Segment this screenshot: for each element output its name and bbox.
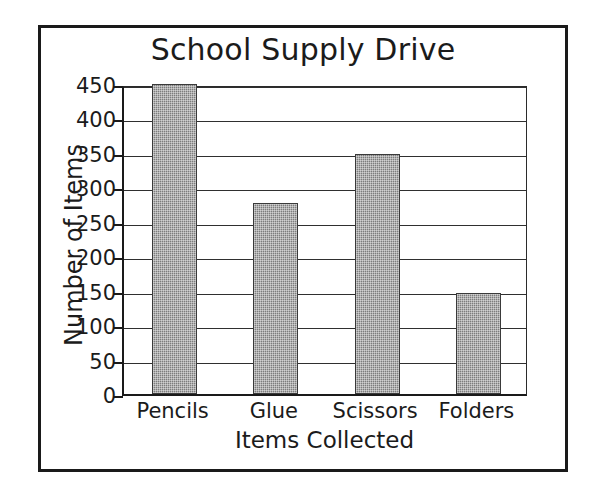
y-axis-tick-mark xyxy=(114,155,123,157)
y-axis-tick-mark xyxy=(114,258,123,260)
y-axis-tick-mark xyxy=(114,327,123,329)
x-axis-tick-label: Pencils xyxy=(136,400,208,423)
x-axis-title: Items Collected xyxy=(122,428,527,453)
y-axis-tick-mark xyxy=(114,86,123,88)
y-axis-tick-mark xyxy=(114,362,123,364)
y-axis-title-wrap: Number of Items xyxy=(56,120,92,370)
bar-scissors xyxy=(355,154,400,394)
y-axis-tick-mark xyxy=(114,396,123,398)
y-axis-tick-mark xyxy=(114,120,123,122)
x-axis-tick-label: Scissors xyxy=(333,400,418,423)
y-axis-tick-mark xyxy=(114,224,123,226)
x-axis-tick-label: Folders xyxy=(438,400,514,423)
y-axis-title: Number of Items xyxy=(62,130,86,360)
x-axis-tick-labels: PencilsGlueScissorsFolders xyxy=(122,400,527,430)
bar-folders xyxy=(456,293,501,394)
plot-area xyxy=(122,86,527,396)
chart-page: School Supply Drive 05010015020025030035… xyxy=(0,0,596,494)
y-axis-tick-mark xyxy=(114,293,123,295)
chart-title: School Supply Drive xyxy=(38,33,568,66)
bar-pencils xyxy=(152,84,197,394)
x-axis-tick-label: Glue xyxy=(250,400,298,423)
bar-glue xyxy=(253,203,298,394)
y-axis-tick-mark xyxy=(114,189,123,191)
